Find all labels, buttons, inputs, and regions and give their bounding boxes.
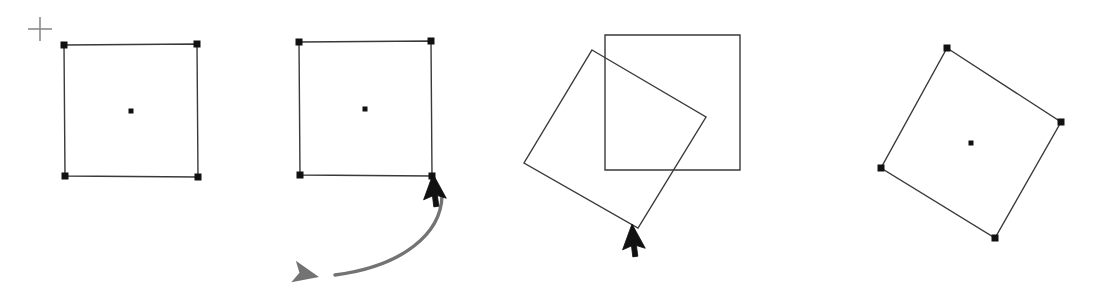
corner-handle-3[interactable] bbox=[992, 235, 999, 242]
square-with-rotate-cursor bbox=[291, 38, 452, 288]
corner-handle-4[interactable] bbox=[878, 165, 885, 172]
square-rotating[interactable] bbox=[524, 50, 706, 228]
mouse-pointer-arrow[interactable] bbox=[622, 224, 652, 260]
corner-handle-2[interactable] bbox=[428, 38, 435, 45]
corner-handle-4[interactable] bbox=[297, 172, 304, 179]
square-original-outline[interactable] bbox=[605, 35, 740, 170]
rotation-direction-arrow bbox=[291, 196, 442, 288]
corner-handle-1[interactable] bbox=[944, 45, 951, 52]
selected-square-initial bbox=[28, 17, 202, 181]
square-mid-rotation bbox=[524, 35, 740, 260]
corner-handle-4[interactable] bbox=[62, 173, 69, 180]
corner-handle-1[interactable] bbox=[296, 39, 303, 46]
corner-handle-3[interactable] bbox=[195, 174, 202, 181]
rotation-sequence-illustration bbox=[0, 0, 1101, 295]
mouse-pointer-arrow[interactable] bbox=[423, 174, 453, 210]
corner-handle-2[interactable] bbox=[194, 41, 201, 48]
square-rotated-final bbox=[878, 45, 1065, 242]
corner-handle-1[interactable] bbox=[61, 42, 68, 49]
crosshair-cursor bbox=[28, 17, 52, 41]
corner-handle-2[interactable] bbox=[1058, 119, 1065, 126]
center-handle[interactable] bbox=[363, 107, 368, 112]
pointer-arrow-glyph bbox=[423, 174, 453, 210]
center-handle[interactable] bbox=[969, 141, 974, 146]
rotation-arrow-head bbox=[291, 261, 321, 288]
center-handle[interactable] bbox=[129, 109, 134, 114]
pointer-arrow-glyph bbox=[622, 224, 652, 260]
diagram-canvas bbox=[0, 0, 1101, 295]
rotation-arrow-curve bbox=[335, 196, 442, 275]
